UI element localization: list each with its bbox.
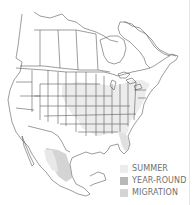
map-legend: SUMMER YEAR-ROUND MIGRATION xyxy=(120,163,186,199)
legend-label: YEAR-ROUND xyxy=(132,175,186,186)
legend-label: MIGRATION xyxy=(132,187,178,198)
year-round-swatch-icon xyxy=(120,177,128,185)
canada-borders xyxy=(20,30,110,72)
migration-swatch-icon xyxy=(120,189,128,197)
us-canada-border xyxy=(16,68,150,76)
hudson-bay xyxy=(100,36,126,64)
summer-swatch-icon xyxy=(120,165,128,173)
legend-item-year-round: YEAR-ROUND xyxy=(120,175,186,186)
frame-edge xyxy=(189,0,190,205)
legend-label: SUMMER xyxy=(132,163,168,174)
summer-range xyxy=(62,80,150,136)
legend-item-summer: SUMMER xyxy=(120,163,186,174)
yucatan xyxy=(90,172,106,186)
legend-item-migration: MIGRATION xyxy=(120,187,186,198)
baja-california xyxy=(22,136,34,166)
us-mexico-border xyxy=(28,126,70,152)
quebec-labrador xyxy=(124,22,170,56)
arctic-coast xyxy=(34,12,118,42)
